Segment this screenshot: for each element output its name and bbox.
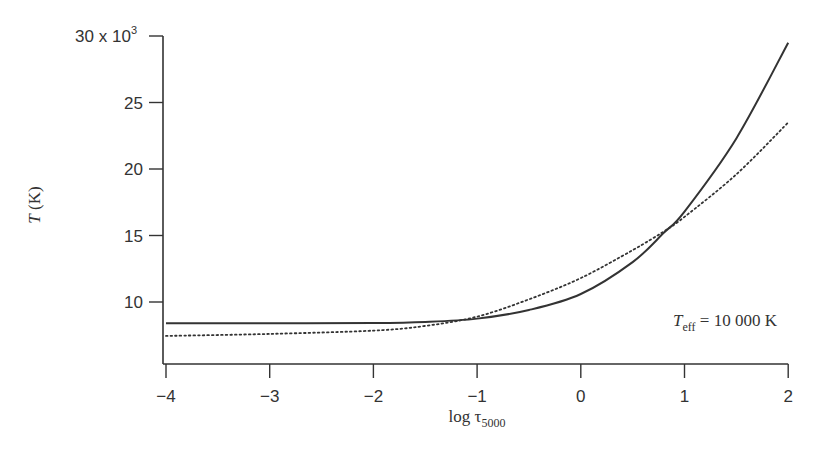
x-tick-label: 0 bbox=[576, 387, 585, 406]
y-tick-label: 20 bbox=[124, 160, 143, 179]
x-tick-label: −2 bbox=[364, 387, 383, 406]
x-tick-label: −1 bbox=[467, 387, 486, 406]
y-tick-label: 25 bbox=[124, 94, 143, 113]
series-solid-line bbox=[166, 43, 788, 324]
teff-annotation: Teff = 10 000 K bbox=[673, 311, 778, 334]
plot-area bbox=[166, 43, 788, 336]
x-tick-label: 2 bbox=[783, 387, 792, 406]
x-tick-label: −4 bbox=[156, 387, 175, 406]
x-tick-label: 1 bbox=[680, 387, 689, 406]
y-tick-label: 15 bbox=[124, 227, 143, 246]
chart-container: 1015202530 x 103−4−3−2−1012 T (K) log τ5… bbox=[0, 0, 823, 454]
axes: 1015202530 x 103−4−3−2−1012 bbox=[75, 24, 793, 406]
x-axis-label: log τ5000 bbox=[449, 407, 506, 430]
x-tick-label: −3 bbox=[260, 387, 279, 406]
y-axis-label: T (K) bbox=[25, 186, 44, 223]
y-tick-label: 10 bbox=[124, 293, 143, 312]
temperature-profile-chart: 1015202530 x 103−4−3−2−1012 T (K) log τ5… bbox=[0, 0, 823, 454]
series-dotted-line bbox=[166, 122, 788, 335]
y-tick-label: 30 x 103 bbox=[75, 24, 137, 46]
